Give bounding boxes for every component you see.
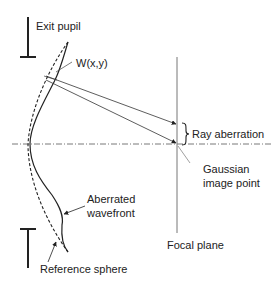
reference-sphere-label: Reference sphere	[40, 263, 127, 275]
gaussian-point-pointer	[178, 146, 190, 163]
wavefront-aberration-diagram: Exit pupil W(x,y) Ray aberration Gaussia…	[0, 0, 279, 287]
ray-to-aberrated-point	[46, 76, 176, 124]
exit-pupil-label: Exit pupil	[36, 20, 81, 32]
focal-plane-label: Focal plane	[167, 239, 224, 251]
aberrated-wavefront-label-2: wavefront	[86, 207, 135, 219]
aberrated-wavefront-label-1: Aberrated	[87, 193, 135, 205]
aberrated-wavefront-pointer	[64, 206, 85, 214]
wavefront-function-label: W(x,y)	[76, 57, 108, 69]
ray-aberration-label: Ray aberration	[192, 128, 264, 140]
gaussian-image-point-label-2: image point	[203, 177, 260, 189]
reference-sphere-pointer	[48, 242, 56, 262]
wxy-pointer	[56, 62, 72, 72]
gaussian-image-point-label-1: Gaussian	[203, 163, 249, 175]
ray-aberration-brace	[182, 123, 189, 145]
exit-pupil-top-marker	[20, 17, 36, 57]
exit-pupil-bottom-marker	[20, 229, 36, 268]
ray-to-gaussian-point	[46, 80, 176, 143]
